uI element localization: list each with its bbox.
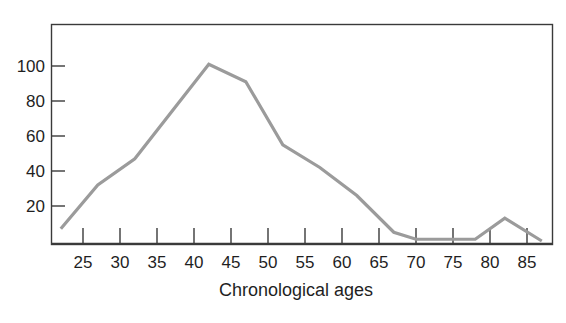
x-tick-label-75: 75 bbox=[444, 253, 463, 272]
data-series-line bbox=[61, 64, 542, 241]
x-tick-label-65: 65 bbox=[370, 253, 389, 272]
y-tick-label-100: 100 bbox=[17, 57, 45, 76]
x-tick-label-40: 40 bbox=[185, 253, 204, 272]
y-axis-tick-labels: 100 80 60 40 20 bbox=[17, 57, 45, 216]
x-tick-label-85: 85 bbox=[518, 253, 537, 272]
x-tick-label-25: 25 bbox=[74, 253, 93, 272]
y-tick-label-20: 20 bbox=[26, 197, 45, 216]
x-tick-label-50: 50 bbox=[259, 253, 278, 272]
y-tick-label-40: 40 bbox=[26, 162, 45, 181]
x-tick-label-60: 60 bbox=[333, 253, 352, 272]
y-tick-label-60: 60 bbox=[26, 127, 45, 146]
x-tick-label-45: 45 bbox=[222, 253, 241, 272]
y-tick-label-80: 80 bbox=[26, 92, 45, 111]
plot-frame bbox=[52, 25, 553, 245]
x-axis-title: Chronological ages bbox=[219, 280, 373, 300]
x-tick-label-55: 55 bbox=[296, 253, 315, 272]
x-tick-label-80: 80 bbox=[481, 253, 500, 272]
chart-figure: 100 80 60 40 20 25 30 35 40 bbox=[0, 0, 566, 323]
y-axis-ticks bbox=[52, 66, 65, 206]
x-tick-label-35: 35 bbox=[148, 253, 167, 272]
x-axis-tick-labels: 25 30 35 40 45 50 55 60 65 70 75 80 85 bbox=[74, 253, 537, 272]
line-chart-plot: 100 80 60 40 20 25 30 35 40 bbox=[0, 0, 566, 323]
x-tick-label-70: 70 bbox=[407, 253, 426, 272]
x-tick-label-30: 30 bbox=[111, 253, 130, 272]
